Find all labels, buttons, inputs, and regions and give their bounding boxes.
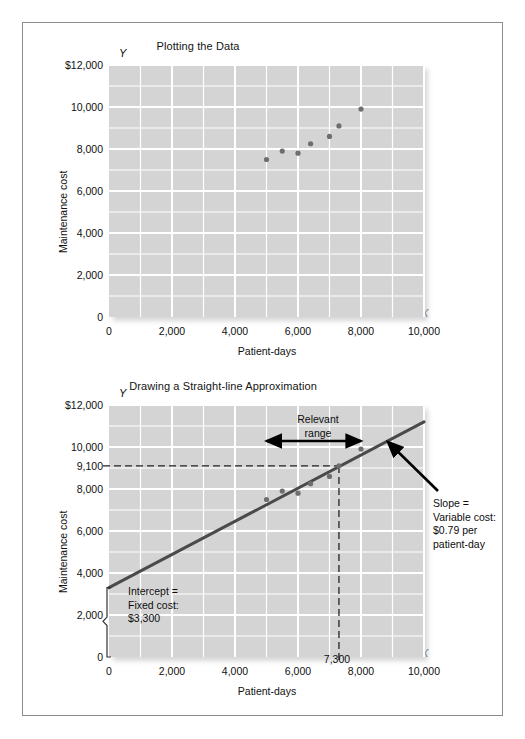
y-tick-top-0: $12,000	[31, 59, 103, 71]
y-axis-label-bottom: Maintenance cost	[57, 511, 69, 593]
y-tick-bottom-2: 8,000	[31, 483, 103, 495]
intercept-annotation: Intercept = Fixed cost: $3,300	[128, 585, 238, 626]
x-tick-top-3: 6,000	[274, 325, 322, 337]
relevant-range-label: Relevant range	[263, 413, 373, 440]
x-tick-bottom-1: 2,000	[148, 665, 196, 677]
chart-title-bottom: Drawing a Straight-line Approximation	[33, 380, 413, 392]
x-tick-top-5: 10,000	[400, 325, 448, 337]
chart-title-top: Plotting the Data	[33, 40, 363, 52]
scatter-plot-top	[109, 65, 424, 317]
y-tick-bottom-5: 2,000	[31, 609, 103, 621]
figure-straight-line-approximation: Drawing a Straight-line Approximation Y …	[23, 369, 504, 717]
x-tick-bottom-4: 8,000	[337, 665, 385, 677]
y-axis-label-top: Maintenance cost	[57, 171, 69, 253]
figure-page-frame: Plotting the Data Y X $12,000 10,000 8,0…	[22, 22, 503, 716]
x-tick-bottom-5: 10,000	[400, 665, 448, 677]
plot-area-top	[109, 65, 424, 317]
x-tick-top-4: 8,000	[337, 325, 385, 337]
x-tick-bottom-2: 4,000	[211, 665, 259, 677]
x-tick-top-2: 4,000	[211, 325, 259, 337]
x-axis-label-top: Patient-days	[183, 345, 351, 357]
x-tick-top-0: 0	[85, 325, 133, 337]
x-axis-label-bottom: Patient-days	[183, 685, 351, 697]
y-tick-bottom-9100: 9,100	[31, 460, 103, 472]
x-tick-top-1: 2,000	[148, 325, 196, 337]
y-axis-letter-bottom: Y	[119, 387, 126, 399]
y-tick-bottom-1: 10,000	[31, 441, 103, 453]
x-tick-bottom-3: 6,000	[274, 665, 322, 677]
slope-annotation: Slope = Variable cost: $0.79 per patient…	[433, 497, 515, 551]
y-tick-top-2: 8,000	[31, 143, 103, 155]
y-tick-bottom-0: $12,000	[31, 399, 103, 411]
x-tick-bottom-7300: 7,300	[313, 653, 361, 665]
y-tick-top-5: 2,000	[31, 269, 103, 281]
figure-plotting-the-data: Plotting the Data Y X $12,000 10,000 8,0…	[23, 29, 504, 369]
y-tick-top-6: 0	[31, 311, 103, 323]
y-tick-top-1: 10,000	[31, 101, 103, 113]
y-tick-bottom-6: 0	[31, 651, 103, 663]
x-tick-bottom-0: 0	[85, 665, 133, 677]
y-axis-letter-top: Y	[119, 47, 126, 59]
